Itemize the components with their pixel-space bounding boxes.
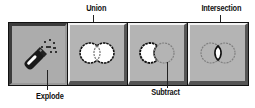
explode-callout-label: Explode [36, 91, 64, 101]
shape-operations-toolbar [8, 22, 249, 86]
explode-button[interactable] [9, 23, 67, 85]
union-callout-label: Union [86, 3, 106, 13]
explode-leader-line [47, 70, 48, 90]
intersection-button[interactable] [188, 23, 248, 85]
subtract-leader-line [167, 62, 168, 88]
subtract-icon [138, 39, 176, 67]
explode-icon [19, 35, 59, 75]
intersection-icon [199, 39, 237, 67]
union-icon [78, 39, 116, 67]
intersection-callout-label: Intersection [201, 3, 241, 13]
subtract-button[interactable] [128, 23, 187, 85]
subtract-callout-label: Subtract [151, 87, 180, 97]
union-button[interactable] [68, 23, 127, 85]
